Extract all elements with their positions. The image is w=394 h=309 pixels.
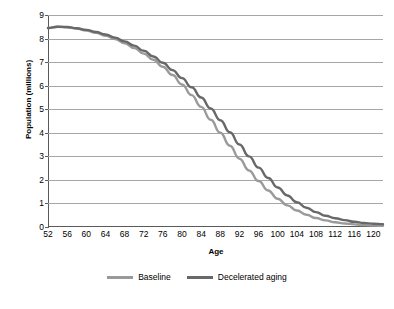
x-tick-label: 60 [82, 229, 91, 239]
x-tick-label: 116 [348, 229, 362, 239]
series-line [48, 27, 383, 226]
x-tick-label: 104 [290, 229, 304, 239]
x-tick-label: 112 [328, 229, 342, 239]
y-tick-label: 5 [39, 104, 44, 114]
x-tick-label: 56 [62, 229, 71, 239]
legend-label: Decelerated aging [218, 272, 287, 282]
y-tick-label: 4 [39, 128, 44, 138]
x-tick-label: 100 [271, 229, 285, 239]
x-tick-label: 72 [139, 229, 148, 239]
series-lines [48, 15, 383, 227]
legend-swatch [107, 276, 133, 279]
y-tick-label: 6 [39, 81, 44, 91]
population-line-chart: Population (millions) 0123456789 5256606… [0, 0, 394, 309]
x-tick-label: 108 [309, 229, 323, 239]
x-tick-label: 88 [216, 229, 225, 239]
x-tick-label: 92 [235, 229, 244, 239]
x-tick-label: 96 [254, 229, 263, 239]
y-tick-label: 1 [39, 198, 44, 208]
legend-swatch [187, 276, 213, 279]
y-tick-label: 2 [39, 175, 44, 185]
chart-legend: BaselineDecelerated aging [0, 272, 394, 282]
x-tick-label: 120 [366, 229, 380, 239]
x-tick-label: 52 [43, 229, 52, 239]
x-tick-label: 76 [158, 229, 167, 239]
legend-item[interactable]: Baseline [107, 272, 171, 282]
x-tick-label: 84 [196, 229, 205, 239]
y-tick-label: 3 [39, 151, 44, 161]
y-tick-label: 7 [39, 57, 44, 67]
y-tick-label: 9 [39, 10, 44, 20]
x-tick-label: 68 [120, 229, 129, 239]
x-axis-title: Age [48, 247, 384, 256]
y-tick-label: 8 [39, 34, 44, 44]
legend-label: Baseline [138, 272, 171, 282]
y-tick-mark [45, 227, 48, 228]
plot-area: 0123456789 52566064687276808488929610010… [48, 15, 383, 227]
x-tick-label: 80 [177, 229, 186, 239]
y-axis-title: Population (millions) [24, 25, 33, 175]
legend-item[interactable]: Decelerated aging [187, 272, 287, 282]
x-tick-label: 64 [101, 229, 110, 239]
